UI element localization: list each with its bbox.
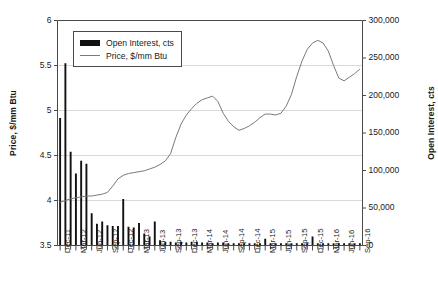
- bar: [59, 118, 61, 246]
- x-axis-tick-label: Jun-15: [284, 229, 293, 252]
- x-axis-tick-label: Sep-16: [363, 228, 372, 253]
- x-axis-tick-label: Dec-12: [126, 228, 135, 252]
- bar-swatch-icon: [80, 40, 100, 46]
- bar: [91, 213, 93, 245]
- x-axis-tick-label: Jun-16: [347, 229, 356, 252]
- y-axis-right-tick-label: 0: [369, 240, 421, 250]
- x-axis-tick-label: Jun-14: [221, 229, 230, 252]
- y-axis-right-tick-label: 200,000: [369, 90, 421, 100]
- y-axis-right-tick-label: 150,000: [369, 127, 421, 137]
- bar: [122, 199, 124, 246]
- x-axis-tick-label: Dec-14: [253, 228, 262, 252]
- y-axis-left-tick-label: 4.5: [12, 150, 52, 160]
- bar: [154, 222, 156, 246]
- legend-item-price: Price, $/mm Btu: [80, 49, 174, 62]
- x-axis-tick-label: Sep-14: [237, 228, 246, 253]
- x-axis-tick-label: Mar-12: [79, 228, 88, 252]
- bar: [107, 225, 109, 245]
- y-axis-left-tick-label: 6: [12, 15, 52, 25]
- bar: [64, 63, 66, 245]
- chart-legend: Open Interest, cts Price, $/mm Btu: [73, 31, 182, 67]
- y-axis-right-tick-label: 300,000: [369, 15, 421, 25]
- y-axis-left-tick-label: 5.5: [12, 60, 52, 70]
- x-axis-tick-label: Dec-15: [316, 228, 325, 252]
- y-axis-right-tick-label: 50,000: [369, 202, 421, 212]
- bar: [170, 242, 172, 246]
- x-axis-tick-label: Dec-11: [63, 229, 72, 253]
- y-axis-left-tick-label: 5: [12, 105, 52, 115]
- line-swatch-icon: [80, 55, 100, 56]
- x-axis-tick-label: Jun-13: [158, 229, 167, 252]
- legend-item-open-interest: Open Interest, cts: [80, 36, 174, 49]
- y-axis-right-tick-label: 250,000: [369, 52, 421, 62]
- y-axis-right-tick-label: 100,000: [369, 165, 421, 175]
- legend-label-price: Price, $/mm Btu: [106, 51, 167, 61]
- x-axis-tick-label: Jun-12: [95, 229, 104, 252]
- bar: [312, 237, 314, 246]
- y-axis-left-tick-label: 3.5: [12, 240, 52, 250]
- x-axis-tick-label: Sep-13: [174, 228, 183, 253]
- x-axis-tick-label: Mar-15: [268, 228, 277, 252]
- x-axis-tick-label: Mar-16: [332, 228, 341, 252]
- bar: [138, 223, 140, 246]
- bar: [264, 239, 266, 246]
- x-axis-tick-label: Dec-13: [190, 228, 199, 252]
- x-axis-tick-label: Sep-12: [111, 228, 120, 253]
- x-axis-tick-label: Sep-15: [300, 228, 309, 253]
- x-axis-tick-label: Mar-14: [205, 228, 214, 252]
- x-axis-tick-label: Mar-13: [142, 228, 151, 252]
- legend-label-open-interest: Open Interest, cts: [106, 38, 174, 48]
- y-axis-left-tick-label: 4: [12, 195, 52, 205]
- chart-container: Price, $/mm Btu Open Interest, cts 3.544…: [0, 0, 438, 300]
- plot-area: [0, 0, 438, 300]
- bar: [75, 174, 77, 246]
